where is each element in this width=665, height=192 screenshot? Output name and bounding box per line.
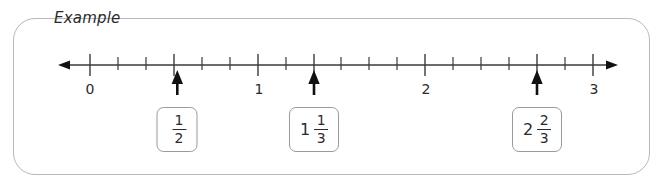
whole-number: 2 [523,122,533,138]
frame-label-notch [58,30,170,44]
fraction-denominator: 3 [317,131,326,146]
fraction-denominator: 2 [175,131,184,146]
answer-box-1[interactable]: 1 2 [157,107,198,152]
tick-label-3: 3 [590,81,599,97]
fraction-numerator: 1 [175,113,184,128]
example-label: Example [54,9,120,27]
example-number-line-figure: Example [0,0,665,192]
mixed-number: 2 2 3 [523,113,551,146]
fraction: 1 2 [172,113,186,146]
answer-box-3[interactable]: 2 2 3 [512,107,562,152]
fraction: 1 3 [314,113,328,146]
mixed-number: 1 1 3 [300,113,328,146]
whole-number: 1 [300,122,310,138]
tick-label-1: 1 [255,81,264,97]
fraction-numerator: 1 [317,113,326,128]
fraction-numerator: 2 [540,113,549,128]
tick-label-0: 0 [86,81,95,97]
fraction-denominator: 3 [540,131,549,146]
fraction: 2 3 [537,113,551,146]
answer-box-2[interactable]: 1 1 3 [289,107,339,152]
tick-label-2: 2 [422,81,431,97]
mixed-number: 1 2 [168,113,186,146]
